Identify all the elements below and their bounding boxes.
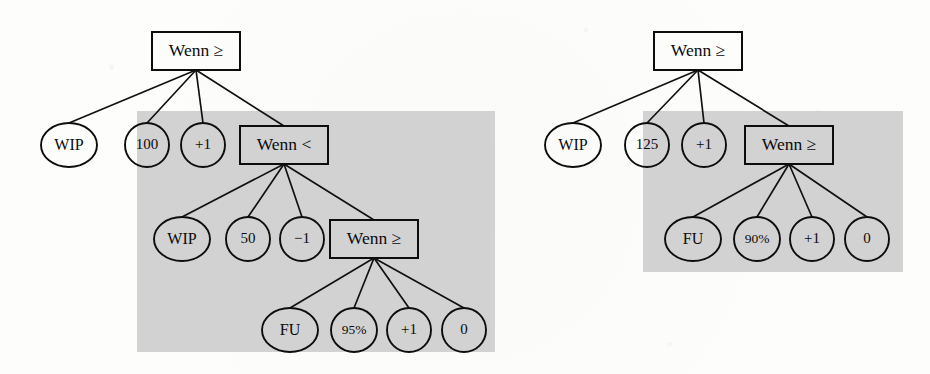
node-label: −1 bbox=[294, 230, 310, 246]
node-label: Wenn ≥ bbox=[169, 40, 223, 60]
node-label: 0 bbox=[460, 321, 468, 337]
node-label: Wenn ≥ bbox=[671, 40, 725, 60]
figure-page: Wenn ≥WIP100+1Wenn <WIP50−1Wenn ≥FU95%+1… bbox=[0, 0, 930, 374]
node-wenn-ge: Wenn ≥ bbox=[654, 32, 742, 70]
node-label: 100 bbox=[136, 136, 159, 152]
node-label: +1 bbox=[195, 136, 211, 152]
expression-tree-diagram: Wenn ≥WIP100+1Wenn <WIP50−1Wenn ≥FU95%+1… bbox=[0, 0, 930, 374]
node-label: +1 bbox=[401, 321, 417, 337]
node-label: FU bbox=[280, 321, 301, 338]
node-wip: WIP bbox=[545, 123, 601, 167]
node-label: WIP bbox=[558, 136, 587, 153]
node-label: WIP bbox=[54, 136, 83, 153]
node-label: WIP bbox=[167, 230, 196, 247]
node-label: Wenn ≥ bbox=[762, 134, 816, 154]
node-label: Wenn ≥ bbox=[347, 228, 401, 248]
node-label: Wenn < bbox=[257, 134, 312, 154]
node-label: 0 bbox=[863, 230, 871, 246]
node-wip: WIP bbox=[41, 123, 97, 167]
node-wenn-ge: Wenn ≥ bbox=[152, 32, 240, 70]
node-label: 95% bbox=[342, 322, 367, 337]
node-label: +1 bbox=[804, 230, 820, 246]
node-label: FU bbox=[683, 230, 704, 247]
node-label: +1 bbox=[696, 136, 712, 152]
node-label: 125 bbox=[636, 136, 659, 152]
node-label: 90% bbox=[745, 231, 770, 246]
node-label: 50 bbox=[241, 230, 256, 246]
